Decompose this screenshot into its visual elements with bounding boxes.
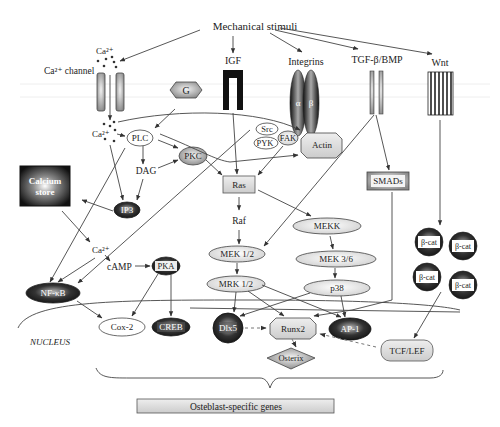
mek12-node: MEK 1/2	[209, 246, 265, 262]
creb-node: CREB	[152, 318, 190, 336]
mek36-node: MEK 3/6	[296, 251, 376, 267]
mek36-label: MEK 3/6	[319, 254, 353, 264]
ca-channel-icon	[97, 73, 124, 111]
svg-text:β-cat: β-cat	[455, 242, 472, 251]
runx2-node: Runx2	[270, 318, 316, 339]
actin-label: Actin	[312, 140, 332, 150]
tgf-bmp-label: TGF-β/BMP	[351, 54, 403, 65]
runx2-label: Runx2	[281, 324, 305, 334]
igf-receptor-icon	[223, 70, 243, 110]
beta-cat-node: β-cat	[415, 228, 443, 256]
osteoblast-genes-box: Osteblast-specific genes	[137, 399, 334, 413]
g-protein-node: G	[170, 82, 202, 98]
plc-label: PLC	[132, 133, 149, 143]
camp-label: cAMP	[107, 262, 132, 272]
fak-label: FAK	[280, 133, 297, 143]
pka-label: PKA	[157, 261, 175, 271]
ras-node: Ras	[223, 176, 255, 193]
beta-catenin-cluster: β-cat β-cat β-cat β-cat	[413, 228, 477, 299]
nucleus-label: NUCLEUS	[29, 337, 71, 347]
mrk12-node: MRK 1/2	[207, 276, 265, 292]
gene-brace	[96, 368, 443, 388]
mrk12-label: MRK 1/2	[219, 279, 253, 289]
svg-text:β-cat: β-cat	[419, 273, 436, 282]
pka-node: PKA	[152, 257, 180, 275]
mechanical-stimuli-label: Mechanical stimuli	[213, 20, 298, 32]
svg-text:β-cat: β-cat	[421, 238, 438, 247]
pyk-node: PYK	[254, 137, 278, 149]
beta-cat-node: β-cat	[449, 271, 477, 299]
calcium-store-label-1: Calcium	[29, 176, 62, 186]
ip3-node: IP3	[114, 202, 140, 218]
calcium-store-label-2: store	[36, 187, 55, 197]
pkc-node: PKC	[179, 147, 207, 165]
ap1-node: AP-1	[329, 318, 371, 340]
ap1-label: AP-1	[340, 324, 359, 334]
igf-label: IGF	[225, 55, 242, 66]
ca-ion-label: Ca²⁺	[96, 46, 114, 56]
integrins-label: Integrins	[288, 56, 324, 67]
mekk-label: MEKK	[314, 221, 341, 231]
ca-in-label: Ca²⁺	[92, 129, 110, 139]
beta-cat-node: β-cat	[449, 232, 477, 260]
integrin-receptor-icon: α β	[290, 70, 319, 136]
pkc-label: PKC	[184, 151, 202, 161]
nuclear-membrane	[190, 308, 460, 312]
raf-label: Raf	[232, 216, 247, 226]
smads-label: SMADs	[373, 176, 403, 186]
tcf-lef-label: TCF/LEF	[389, 346, 424, 356]
g-label: G	[182, 85, 189, 96]
cox2-label: Cox-2	[111, 322, 134, 332]
dlx5-label: Dlx5	[219, 323, 238, 333]
tgf-receptor-icon	[370, 71, 383, 114]
pyk-label: PYK	[256, 138, 274, 148]
tcf-lef-node: TCF/LEF	[381, 340, 433, 361]
beta-label: β	[309, 98, 314, 108]
alpha-label: α	[296, 98, 301, 108]
ip3-label: IP3	[121, 205, 134, 215]
signaling-diagram: Mechanical stimuli Ca²⁺ Ca²⁺ channel Ca²…	[0, 0, 500, 427]
src-label: Src	[261, 124, 273, 134]
nfkb-label: NF-κB	[40, 288, 65, 298]
p38-label: p38	[330, 283, 344, 293]
ca-cyto-label: Ca²⁺	[92, 245, 110, 255]
dag-label: DAG	[136, 166, 157, 176]
beta-cat-node: β-cat	[413, 263, 441, 291]
dlx5-node: Dlx5	[213, 313, 243, 343]
smads-node: SMADs	[367, 172, 409, 190]
actin-node: Actin	[301, 133, 342, 158]
mek12-label: MEK 1/2	[220, 249, 254, 259]
src-node: Src	[256, 123, 278, 135]
wnt-receptor-icon	[428, 72, 453, 115]
wnt-label: Wnt	[431, 57, 448, 68]
genes-box-label: Osteblast-specific genes	[190, 402, 282, 412]
nfkb-node: NF-κB	[26, 283, 80, 303]
fak-node: FAK	[278, 131, 298, 145]
osterix-label: Osterix	[278, 353, 304, 363]
p38-node: p38	[304, 280, 370, 296]
ca-channel-label: Ca²⁺ channel	[44, 66, 95, 76]
mekk-node: MEKK	[293, 218, 361, 234]
calcium-store-node: Calcium store	[20, 166, 70, 206]
cox2-node: Cox-2	[99, 318, 145, 336]
osterix-node: Osterix	[267, 348, 315, 369]
ras-label: Ras	[232, 180, 246, 190]
svg-text:β-cat: β-cat	[455, 281, 472, 290]
creb-label: CREB	[159, 322, 183, 332]
plc-node: PLC	[127, 130, 153, 146]
